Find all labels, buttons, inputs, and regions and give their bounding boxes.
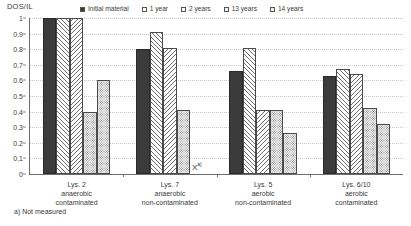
- bar-slot: [163, 18, 177, 174]
- chart-footnote: a) Not measured: [14, 208, 66, 215]
- y-tick-mark: [23, 158, 26, 159]
- dotted-swatch: [270, 7, 275, 12]
- y-tick-label: 0.5: [13, 93, 23, 100]
- bar-slot: [270, 18, 284, 174]
- bar[interactable]: [43, 18, 57, 174]
- y-tick-label: 0.9: [13, 30, 23, 37]
- y-tick-label: 0.1: [13, 155, 23, 162]
- legend-item-label: 2 years: [189, 6, 211, 13]
- y-tick-mark: [23, 127, 26, 128]
- bar[interactable]: [97, 80, 111, 174]
- bar-group: [310, 18, 403, 174]
- x-axis-label: Lys. 5aerobicnon-contaminated: [217, 180, 310, 208]
- bar-slot: [243, 18, 257, 174]
- y-tick-label: 0.7: [13, 61, 23, 68]
- bar-slot: [377, 18, 391, 174]
- legend-item-label: 13 years: [232, 6, 257, 13]
- x-axis-label-line: Lys. 2: [30, 180, 123, 189]
- y-tick-label: 0.4: [13, 108, 23, 115]
- legend-item-label: 1 year: [150, 6, 168, 13]
- x-axis-labels: Lys. 2anaerobiccontaminatedLys. 7anaerob…: [30, 180, 403, 208]
- x-axis-label-line: non-contaminated: [217, 198, 310, 207]
- plot-wrapper: 00.10.20.30.40.50.60.70.80.91 Xa): [0, 18, 411, 178]
- legend-item-label: Initial material: [88, 6, 129, 13]
- bar[interactable]: [136, 49, 150, 174]
- y-tick-label: 0.8: [13, 46, 23, 53]
- hatch-forward-swatch: [142, 7, 147, 12]
- bar-slot: [350, 18, 364, 174]
- y-tick-label: 0.6: [13, 77, 23, 84]
- bar[interactable]: [150, 32, 164, 174]
- bar[interactable]: [350, 74, 364, 174]
- legend-item-label: 14 years: [278, 6, 303, 13]
- y-tick-mark: [23, 96, 26, 97]
- legend-item: 13 years: [224, 6, 257, 13]
- x-axis-label-line: Lys. 7: [123, 180, 216, 189]
- bar[interactable]: [283, 133, 297, 174]
- y-axis-ticks: 00.10.20.30.40.50.60.70.80.91: [0, 18, 26, 174]
- x-axis-label-line: anaerobic: [30, 189, 123, 198]
- bar[interactable]: [243, 48, 257, 174]
- x-axis-label-line: Lys. 6/10: [310, 180, 403, 189]
- bar-slot: [229, 18, 243, 174]
- dotted-swatch: [224, 7, 229, 12]
- hatch-backward-swatch: [181, 7, 186, 12]
- x-axis-label-line: Lys. 5: [217, 180, 310, 189]
- bar[interactable]: [56, 18, 70, 174]
- bar[interactable]: [256, 110, 270, 174]
- bar[interactable]: [377, 124, 391, 174]
- bar-slot: [256, 18, 270, 174]
- y-tick-mark: [23, 174, 26, 175]
- x-axis-label: Lys. 2anaerobiccontaminated: [30, 180, 123, 208]
- bar-slot: [56, 18, 70, 174]
- bar-slot: [363, 18, 377, 174]
- y-tick-mark: [23, 18, 26, 19]
- bar-slot: [336, 18, 350, 174]
- bar[interactable]: [83, 112, 97, 174]
- bar-slot: Xa): [190, 18, 204, 174]
- x-axis-label-line: aerobic: [217, 189, 310, 198]
- bar[interactable]: [336, 69, 350, 174]
- y-tick-mark: [23, 64, 26, 65]
- solid-dark-swatch: [80, 7, 85, 12]
- bar[interactable]: [323, 76, 337, 174]
- legend-item: Initial material: [80, 6, 129, 13]
- bar[interactable]: [70, 18, 84, 174]
- y-tick-mark: [23, 49, 26, 50]
- bar-slot: [283, 18, 297, 174]
- y-tick-label: 0.3: [13, 124, 23, 131]
- bar-group: [30, 18, 123, 174]
- bar-slot: [70, 18, 84, 174]
- bar-slot: [150, 18, 164, 174]
- bar-slot: [177, 18, 191, 174]
- x-axis-label-line: contaminated: [30, 198, 123, 207]
- y-tick-mark: [23, 80, 26, 81]
- x-axis-label-line: non-contaminated: [123, 198, 216, 207]
- y-tick-mark: [23, 111, 26, 112]
- y-tick-label: 0.2: [13, 139, 23, 146]
- bar-slot: [97, 18, 111, 174]
- bar[interactable]: [163, 48, 177, 174]
- x-axis-label-line: anaerobic: [123, 189, 216, 198]
- bar-group: Xa): [123, 18, 216, 174]
- x-axis-label-line: contaminated: [310, 198, 403, 207]
- y-axis-title: DOS/IL: [7, 2, 33, 11]
- bar[interactable]: [363, 108, 377, 174]
- bar-slot: [136, 18, 150, 174]
- x-axis-label: Lys. 6/10aerobiccontaminated: [310, 180, 403, 208]
- bar-slot: [323, 18, 337, 174]
- missing-data-superscript: a): [197, 161, 201, 167]
- missing-data-marker: Xa): [192, 161, 202, 172]
- legend-item: 14 years: [270, 6, 303, 13]
- chart-legend: Initial material1 year2 years13 years14 …: [80, 6, 303, 13]
- legend-item: 1 year: [142, 6, 168, 13]
- x-axis-label: Lys. 7anaerobicnon-contaminated: [123, 180, 216, 208]
- x-axis-label-line: aerobic: [310, 189, 403, 198]
- plot-area: Xa): [29, 18, 403, 175]
- y-tick-mark: [23, 142, 26, 143]
- bar[interactable]: [177, 110, 191, 174]
- bar[interactable]: [270, 110, 284, 174]
- bar-slot: [83, 18, 97, 174]
- bar-slot: [43, 18, 57, 174]
- bar[interactable]: [229, 71, 243, 174]
